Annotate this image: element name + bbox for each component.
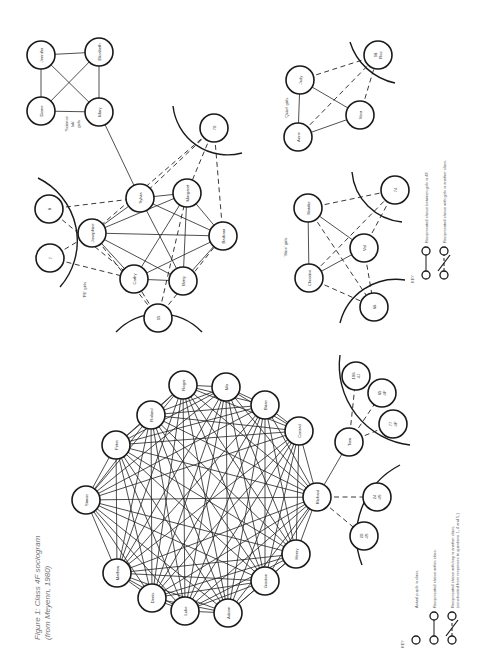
node-josephine: Josephine <box>78 219 106 247</box>
node-sylvia: Sylvia <box>126 184 154 212</box>
node-diane: Diane <box>27 97 55 125</box>
svg-text:(constructed from responses to: (constructed from responses to questions… <box>455 513 460 608</box>
node-label: 66 <box>372 304 377 309</box>
node-val: Val <box>350 234 378 262</box>
node-label: Gordon <box>263 573 268 588</box>
node-brian: Brian <box>251 391 279 419</box>
nodes-layer: JenniferElizabethDianeMary7087JosephineS… <box>27 38 409 627</box>
node-label: 4F <box>393 421 398 426</box>
node-label: 4S <box>364 533 369 538</box>
node-anne: Anne <box>284 123 312 151</box>
node-label: 4J <box>356 374 361 378</box>
node-label: Betty <box>181 275 186 285</box>
caption-line-1: Figure 1: Class 4F sociogram <box>33 535 42 640</box>
node-g70: 70 <box>200 114 228 142</box>
sociogram-figure: JenniferElizabethDianeMary7087JosephineS… <box>0 0 480 670</box>
figure-caption: Figure 1: Class 4F sociogram (from Meyen… <box>33 535 52 640</box>
node-label: Christine <box>307 269 312 286</box>
node-cathy: Cathy <box>120 265 148 293</box>
caption-line-2: (from Meyenn, 1980) <box>43 565 52 640</box>
node-vera: Vera <box>346 101 374 129</box>
node-luke: Luke <box>171 597 199 625</box>
edge-josephine-barbara <box>92 233 223 236</box>
node-g95: 95 <box>144 304 172 332</box>
node-label: 74 <box>393 187 398 192</box>
svg-text:'Science: 'Science <box>64 115 69 131</box>
node-label: 4F <box>382 390 387 395</box>
node-label: Jennifer <box>39 47 44 63</box>
node-b106: 1064J <box>342 362 370 390</box>
node-richard: Richard <box>303 483 331 511</box>
node-roz: 98Roz <box>364 41 392 69</box>
node-g8: 8 <box>35 195 63 223</box>
key-legends: KEYReciprocated choice between girls in … <box>400 160 460 648</box>
edge-simon-luke <box>86 500 185 611</box>
node-b77: 774F <box>379 410 407 438</box>
node-label: Mathew <box>115 565 120 581</box>
node-peter: Peter <box>102 431 130 459</box>
node-label: Sylvia <box>138 192 143 204</box>
key-item-text: Reciprocated choice between girls in 4F. <box>424 171 429 243</box>
node-label: Tom <box>347 438 352 446</box>
edge-peter-mathew <box>116 445 117 573</box>
node-roland: Roland <box>137 401 165 429</box>
svg-text:'Quiet' girls: 'Quiet' girls <box>284 98 289 118</box>
node-judy: Judy <box>286 66 314 94</box>
node-b65: 654F <box>368 379 396 407</box>
node-label: Natalie <box>306 201 311 215</box>
node-label: Adrian <box>226 606 231 619</box>
key-title: KEY <box>410 275 415 283</box>
node-label: Brian <box>263 399 268 409</box>
edge-roland-henry <box>151 415 296 554</box>
node-label: Diane <box>39 105 44 117</box>
svg-text:lab': lab' <box>70 121 75 128</box>
node-label: Mo <box>224 383 229 389</box>
node-simon: Simon <box>72 486 100 514</box>
node-label: Mary <box>97 106 102 116</box>
node-henry: Henry <box>282 540 310 568</box>
node-label: Margaret <box>185 184 190 202</box>
key-icon-pupil <box>412 636 420 644</box>
edge-simon-richard <box>86 497 317 500</box>
key-icon-solid <box>422 271 430 279</box>
group-label: 'PE' girls <box>82 282 87 298</box>
node-b24: 244S <box>363 483 391 511</box>
group-label: 'Nice' girls <box>283 238 288 257</box>
node-label: Peter <box>114 439 119 450</box>
node-g7: 7 <box>36 244 64 272</box>
svg-text:girls: girls <box>76 120 81 128</box>
key-item-text: Actual pupils in class. <box>414 570 419 608</box>
key-icon-cross <box>448 636 456 644</box>
boys-key: KEYActual pupils in class.Reciprocated c… <box>400 513 460 648</box>
node-label: Elizabeth <box>97 43 102 61</box>
svg-text:'PE' girls: 'PE' girls <box>82 282 87 298</box>
key-icon-dashed <box>440 271 448 279</box>
node-gordon: Gordon <box>251 567 279 595</box>
node-denis: Denis <box>138 584 166 612</box>
key-item-text: Reciprocated choice with girls in anothe… <box>442 160 447 243</box>
node-betty: Betty <box>169 267 197 295</box>
node-label: 4S <box>377 494 382 499</box>
group-label: 'Sciencelab'girls <box>64 115 81 131</box>
node-christine: Christine <box>295 264 323 292</box>
node-tom: Tom <box>335 428 363 456</box>
key-title: KEY <box>400 640 405 648</box>
edge-roland-luke <box>151 415 185 611</box>
node-label: Roger <box>181 379 186 391</box>
node-label: Josephine <box>90 223 95 243</box>
node-b20: 204S <box>350 522 378 550</box>
node-label: Roz <box>378 51 383 58</box>
node-barbara: Barbara <box>209 222 237 250</box>
node-roger: Roger <box>169 371 197 399</box>
node-elizabeth: Elizabeth <box>85 38 113 66</box>
node-jennifer: Jennifer <box>27 41 55 69</box>
node-label: Simon <box>84 493 89 506</box>
node-label: Vera <box>358 110 363 119</box>
key-icon-solid <box>430 636 438 644</box>
node-mathew: Mathew <box>103 559 131 587</box>
node-g66: 66 <box>360 293 388 321</box>
group-label: 'Quiet' girls <box>284 98 289 118</box>
edge-g70-josephine <box>92 128 214 233</box>
girls-key: KEYReciprocated choice between girls in … <box>410 160 450 283</box>
node-label: Anne <box>296 131 301 141</box>
